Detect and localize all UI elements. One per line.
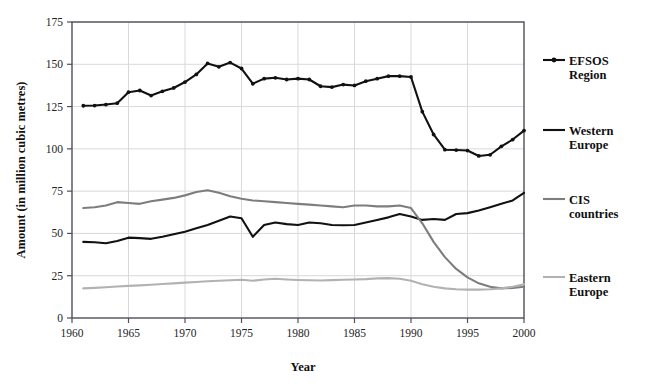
y-axis-title: Amount (in million cubic metres) [14,82,28,259]
x-axis-tick-label: 1960 [61,327,84,339]
data-point-marker [511,138,515,142]
y-axis-tick-label: 150 [46,58,64,70]
data-point-marker [149,94,153,98]
data-point-marker [454,148,458,152]
data-point-marker [93,104,97,108]
data-point-marker [330,85,334,89]
data-point-marker [217,65,221,69]
x-axis-tick-label: 1985 [343,327,366,339]
y-axis-tick-label: 125 [46,101,64,113]
legend-label-line1: Western [569,124,613,138]
data-point-marker [307,78,311,82]
legend-swatch-marker [552,58,557,63]
data-point-marker [161,89,165,93]
data-point-marker [387,74,391,78]
legend-label-line2: Region [569,68,607,82]
data-point-marker [353,84,357,88]
data-point-marker [341,83,345,87]
data-point-marker [183,80,187,84]
legend-label-line1: Eastern [569,271,611,285]
data-point-marker [319,84,323,88]
x-axis-tick-label: 1990 [400,327,423,339]
x-axis-tick-label: 1970 [174,327,197,339]
data-point-marker [127,90,131,94]
data-point-marker [296,77,300,81]
data-point-marker [432,133,436,137]
data-point-marker [104,103,108,107]
data-point-marker [274,76,278,80]
data-point-marker [522,129,526,133]
data-point-marker [500,144,504,148]
y-axis-tick-label: 0 [57,312,63,324]
data-point-marker [443,148,447,152]
data-point-marker [488,153,492,157]
x-axis-tick-label: 1965 [117,327,140,339]
y-axis-tick-label: 100 [46,143,64,155]
x-axis-tick-label: 1975 [230,327,253,339]
x-axis-tick-label: 1980 [287,327,310,339]
legend-label-line2: countries [569,207,618,221]
x-axis-tick-labels: 196019651970197519801985199019952000 [61,327,536,339]
y-axis-tick-label: 50 [52,227,64,239]
x-axis-title: Year [291,360,316,374]
data-point-marker [409,75,413,79]
data-point-marker [81,104,85,108]
data-point-marker [172,86,176,90]
chart-figure: 196019651970197519801985199019952000 025… [0,0,645,384]
data-point-marker [420,110,424,114]
data-point-marker [398,74,402,78]
data-point-marker [477,154,481,158]
data-point-marker [206,62,210,66]
data-point-marker [375,77,379,81]
legend-label-line2: Europe [569,285,609,299]
data-point-marker [240,67,244,71]
y-axis-tick-label: 75 [52,185,64,197]
legend-label-line1: CIS [569,193,590,207]
y-axis-tick-label: 25 [52,270,64,282]
data-point-marker [262,77,266,81]
data-point-marker [466,149,470,153]
chart-background [0,0,645,384]
y-axis-tick-label: 175 [46,16,64,28]
x-axis-tick-label: 2000 [513,327,536,339]
data-point-marker [251,82,255,86]
data-point-marker [364,79,368,83]
data-point-marker [285,78,289,82]
data-point-marker [138,89,142,93]
x-axis-tick-label: 1995 [456,327,479,339]
data-point-marker [228,61,232,65]
data-point-marker [115,101,119,105]
legend-label-line1: EFSOS [569,54,609,68]
data-point-marker [194,73,198,77]
legend-label-line2: Europe [569,138,609,152]
line-chart: 196019651970197519801985199019952000 025… [0,0,645,384]
